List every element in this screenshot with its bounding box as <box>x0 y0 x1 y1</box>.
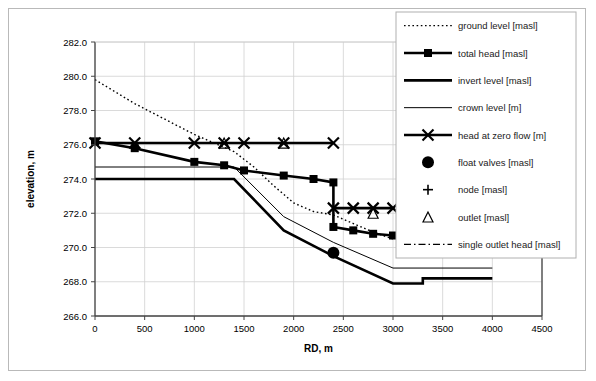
y-tick-label: 280.0 <box>63 71 87 82</box>
legend-label: node [masl] <box>458 184 507 195</box>
legend-label: outlet [masl] <box>458 212 509 223</box>
x-tick-label: 500 <box>137 323 153 334</box>
elevation-profile-chart: 266.0268.0270.0272.0274.0276.0278.0280.0… <box>0 0 596 381</box>
chart-legend[interactable]: ground level [masl]total head [masl]inve… <box>396 12 576 258</box>
y-tick-label: 276.0 <box>63 139 87 150</box>
marker-square <box>310 175 318 183</box>
marker-square <box>220 161 228 169</box>
series-float-valves-masl <box>327 247 339 259</box>
chart-container: 266.0268.0270.0272.0274.0276.0278.0280.0… <box>0 0 596 381</box>
marker-square <box>349 226 357 234</box>
x-tick-label: 0 <box>92 323 97 334</box>
legend-label: single outlet head [masl] <box>458 239 560 250</box>
x-tick-label: 1000 <box>184 323 205 334</box>
legend-label: float valves [masl] <box>458 157 534 168</box>
marker-circle <box>422 156 434 168</box>
legend-label: invert level [masl] <box>458 75 531 86</box>
y-tick-label: 278.0 <box>63 105 87 116</box>
marker-square <box>329 178 337 186</box>
marker-square <box>424 49 432 57</box>
y-axis-title: elevation, m <box>25 150 36 208</box>
x-tick-label: 4000 <box>482 323 503 334</box>
x-axis-title: RD, m <box>304 343 333 354</box>
y-tick-label: 270.0 <box>63 242 87 253</box>
x-tick-label: 4500 <box>531 323 552 334</box>
legend-label: total head [masl] <box>458 48 528 59</box>
x-tick-label: 3000 <box>382 323 403 334</box>
marker-square <box>329 223 337 231</box>
x-tick-label: 2000 <box>283 323 304 334</box>
x-tick-label: 1500 <box>233 323 254 334</box>
y-tick-label: 266.0 <box>63 311 87 322</box>
marker-square <box>240 166 248 174</box>
legend-label: crown level [m] <box>458 102 521 113</box>
legend-item-head-at-zero-flow-m[interactable]: head at zero flow [m] <box>404 130 546 141</box>
marker-circle <box>327 247 339 259</box>
marker-square <box>369 230 377 238</box>
legend-label: head at zero flow [m] <box>458 130 546 141</box>
legend-label: ground level [masl] <box>458 20 538 31</box>
y-tick-label: 282.0 <box>63 37 87 48</box>
marker-square <box>190 158 198 166</box>
y-tick-label: 274.0 <box>63 174 87 185</box>
marker-square <box>280 172 288 180</box>
y-tick-label: 268.0 <box>63 276 87 287</box>
x-tick-label: 3500 <box>432 323 453 334</box>
y-tick-label: 272.0 <box>63 208 87 219</box>
x-tick-label: 2500 <box>333 323 354 334</box>
